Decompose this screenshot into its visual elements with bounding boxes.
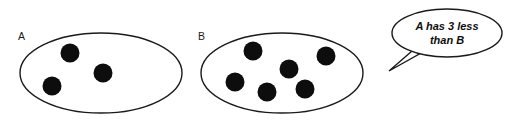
counter-dot (43, 77, 62, 96)
counter-dot (244, 42, 263, 61)
speech-bubble: A has 3 less than B (389, 9, 502, 71)
set-label-b: B (198, 30, 205, 42)
set-label-a: A (18, 30, 25, 42)
set-group-a: A (18, 30, 182, 113)
comparison-diagram: A B A has 3 less than B (0, 0, 509, 130)
counter-dot (61, 44, 80, 63)
speech-bubble-tail (389, 51, 421, 71)
counter-dot (258, 83, 277, 102)
counter-dot (94, 64, 113, 83)
counter-dot (317, 47, 336, 66)
speech-bubble-line-1: A has 3 less (414, 20, 478, 32)
speech-bubble-body (392, 9, 502, 57)
set-group-b: B (198, 30, 363, 113)
counter-dot (280, 60, 299, 79)
speech-bubble-line-2: than B (430, 34, 464, 46)
diagram-canvas: A B A has 3 less than B (0, 0, 509, 130)
counter-dot (226, 73, 245, 92)
counter-dot (296, 80, 315, 99)
